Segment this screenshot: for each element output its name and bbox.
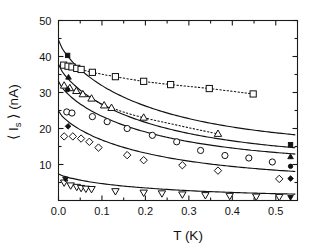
fit-line-filled-triangles-solid bbox=[59, 64, 296, 148]
y-tick-label: 40 bbox=[39, 51, 51, 63]
x-tick-label: 0.2 bbox=[138, 205, 153, 217]
fit-line-filled-squares-solid bbox=[59, 40, 296, 135]
data-point-open-squares-dotted bbox=[78, 66, 84, 72]
data-point-filled-circles-right bbox=[65, 87, 69, 91]
data-point-open-down-triangles-solid bbox=[140, 190, 147, 196]
data-point-open-diamonds-solid bbox=[140, 156, 147, 163]
x-axis-tick-labels: 0.00.10.20.30.40.5 bbox=[51, 205, 284, 217]
y-tick-label: 50 bbox=[39, 15, 51, 27]
data-point-filled-triangles-solid bbox=[288, 154, 294, 159]
data-markers bbox=[60, 53, 293, 201]
fit-line-open-down-triangles-solid bbox=[59, 174, 296, 194]
x-tick-label: 0.5 bbox=[268, 205, 283, 217]
data-point-open-diamonds-solid bbox=[179, 162, 186, 169]
data-point-open-circles-solid bbox=[197, 147, 203, 153]
data-point-open-squares-dotted bbox=[112, 74, 118, 80]
fit-line-open-triangles-dotted bbox=[64, 86, 218, 134]
y-axis-title-text: ⟨ Is ⟩ (nA) bbox=[6, 84, 23, 139]
y-axis-tick-labels: 1020304050 bbox=[39, 15, 51, 171]
data-point-open-squares-dotted bbox=[250, 91, 256, 97]
data-point-open-circles-solid bbox=[104, 119, 110, 125]
data-point-filled-squares-solid bbox=[65, 53, 69, 57]
x-tick-label: 0.3 bbox=[181, 205, 196, 217]
data-point-open-diamonds-solid bbox=[123, 151, 130, 158]
x-axis-ticks bbox=[59, 21, 298, 201]
data-point-open-squares-dotted bbox=[206, 85, 212, 91]
data-point-open-down-triangles-solid bbox=[179, 192, 186, 198]
data-point-open-down-triangles-solid bbox=[112, 189, 119, 195]
x-axis-title-text: T (K) bbox=[173, 228, 203, 243]
data-point-filled-diamonds-right bbox=[65, 124, 71, 130]
x-tick-label: 0.1 bbox=[94, 205, 109, 217]
scatter-plot: 0.00.10.20.30.40.5 1020304050 T (K) ⟨ Is… bbox=[0, 0, 315, 252]
x-tick-label: 0.4 bbox=[225, 205, 240, 217]
data-point-open-squares-dotted bbox=[89, 69, 95, 75]
data-point-open-down-triangles-solid bbox=[88, 187, 95, 193]
data-point-open-circles-solid bbox=[124, 125, 130, 131]
data-point-filled-circles-right bbox=[288, 164, 292, 168]
axes-frame bbox=[59, 21, 298, 201]
data-point-open-circles-solid bbox=[89, 114, 95, 120]
y-tick-label: 30 bbox=[39, 87, 51, 99]
data-point-open-circles-solid bbox=[149, 132, 155, 138]
y-axis-title: ⟨ Is ⟩ (nA) bbox=[6, 84, 23, 139]
data-point-filled-down-triangles bbox=[288, 196, 294, 201]
data-point-filled-diamonds-right bbox=[288, 176, 294, 182]
data-point-open-diamonds-solid bbox=[95, 144, 102, 151]
y-tick-label: 20 bbox=[39, 123, 51, 135]
data-point-open-diamonds-solid bbox=[77, 135, 84, 142]
figure-container: 0.00.10.20.30.40.5 1020304050 T (K) ⟨ Is… bbox=[0, 0, 315, 252]
plot-frame bbox=[59, 21, 298, 201]
x-axis-title: T (K) bbox=[173, 228, 203, 243]
data-point-open-triangles-dotted bbox=[100, 102, 107, 108]
data-point-open-diamonds-solid bbox=[69, 133, 76, 140]
data-point-open-squares-dotted bbox=[141, 78, 147, 84]
data-point-open-diamonds-solid bbox=[276, 175, 283, 182]
data-point-open-down-triangles-solid bbox=[276, 194, 283, 200]
y-tick-label: 10 bbox=[39, 159, 51, 171]
data-point-open-diamonds-solid bbox=[86, 138, 93, 145]
data-point-open-diamonds-solid bbox=[60, 133, 67, 140]
data-point-open-circles-solid bbox=[222, 152, 228, 158]
data-point-open-down-triangles-solid bbox=[202, 193, 209, 199]
data-point-open-circles-solid bbox=[174, 139, 180, 145]
data-point-open-circles-solid bbox=[269, 159, 275, 165]
data-point-open-diamonds-solid bbox=[214, 167, 221, 174]
data-point-open-circles-solid bbox=[246, 155, 252, 161]
data-point-open-squares-dotted bbox=[168, 81, 174, 87]
data-point-filled-squares-solid bbox=[288, 143, 292, 147]
data-point-open-triangles-dotted bbox=[88, 95, 95, 101]
data-point-open-circles-solid bbox=[69, 110, 75, 116]
x-tick-label: 0.0 bbox=[51, 205, 66, 217]
data-point-open-down-triangles-solid bbox=[158, 191, 165, 197]
